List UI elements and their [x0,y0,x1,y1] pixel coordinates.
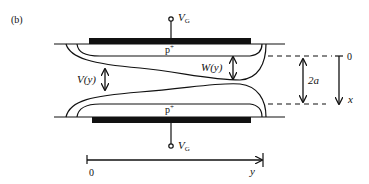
panel-label: (b) [11,14,23,26]
top-gate: VG [54,11,285,44]
x-axis-label: x [347,93,353,105]
bottom-gate-terminal-icon [169,144,173,148]
channel-width-label: V(y) [77,73,96,86]
bottom-gate: VG [54,117,285,153]
bottom-gate-label: VG [178,139,190,153]
x-axis-origin-label: 0 [347,51,352,62]
top-gate-label: VG [178,11,190,25]
y-axis-origin-label: 0 [89,167,94,178]
y-axis-label: y [249,165,255,177]
top-p-plus-label: p+ [165,43,174,55]
jfet-diagram: (b) VG p+ VG p+ V(y) W(y) 2a [0,0,369,184]
depletion-width-label: W(y) [201,61,223,74]
bottom-p-plus-label: p+ [165,103,174,115]
half-width-label: 2a [308,74,320,86]
bottom-gate-electrode [92,117,251,123]
top-gate-terminal-icon [169,17,173,21]
